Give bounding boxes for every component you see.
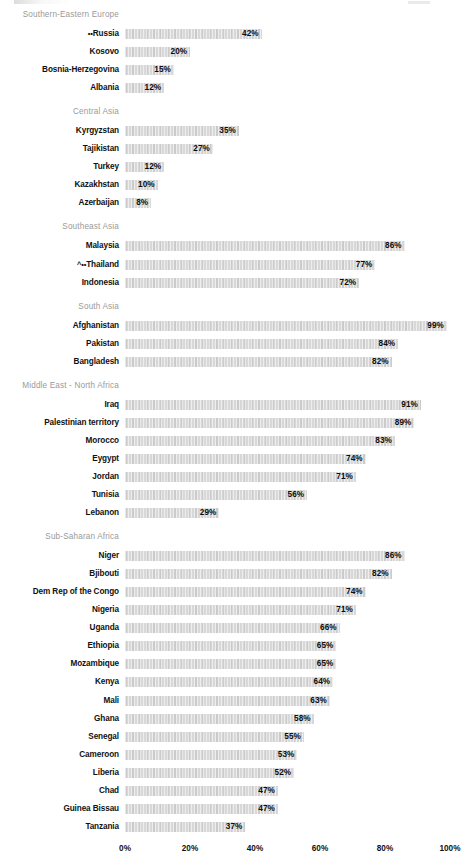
axis-tick-label: 100% — [430, 844, 468, 853]
chart-row: Chad47% — [0, 784, 468, 798]
bar-area: 72% — [125, 276, 450, 290]
row-label: Cameroon — [0, 748, 119, 762]
chart-row: Niger86% — [0, 549, 468, 563]
chart-row: Liberia52% — [0, 766, 468, 780]
row-label: Kazakhstan — [0, 178, 119, 192]
row-label: Indonesia — [0, 276, 119, 290]
country-name: Ethiopia — [88, 641, 120, 650]
row-label: Niger — [0, 549, 119, 563]
bar-area: 65% — [125, 639, 450, 653]
chart-row: ••Russia42% — [0, 27, 468, 41]
country-name: Guinea Bissau — [63, 804, 119, 813]
chart-row: Cameroon53% — [0, 748, 468, 762]
chart-row: Ethiopia65% — [0, 639, 468, 653]
bar-value-label: 86% — [125, 240, 402, 252]
country-name: Bjibouti — [89, 569, 119, 578]
row-label: Malaysia — [0, 239, 119, 253]
bar-area: 86% — [125, 549, 450, 563]
country-name: Uganda — [90, 623, 119, 632]
bar-area: 56% — [125, 488, 450, 502]
group-header: Central Asia — [0, 105, 119, 118]
axis-tick-label: 80% — [365, 844, 405, 853]
bar-value-label: 91% — [125, 399, 418, 411]
row-label: Ghana — [0, 712, 119, 726]
row-label: Jordan — [0, 470, 119, 484]
bar-value-label: 15% — [125, 64, 171, 76]
bar-area: 84% — [125, 337, 450, 351]
country-name: Morocco — [86, 436, 119, 445]
row-label: ^••Thailand — [0, 258, 119, 272]
country-name: Bangladesh — [74, 357, 119, 366]
country-name: Mali — [103, 696, 119, 705]
bar-area: 53% — [125, 748, 450, 762]
bar-value-label: 65% — [125, 640, 333, 652]
bar-area: 37% — [125, 820, 450, 834]
bar-area: 58% — [125, 712, 450, 726]
chart-row: Afghanistan99% — [0, 319, 468, 333]
chart-row: Tunisia56% — [0, 488, 468, 502]
chart-row: Senegal55% — [0, 730, 468, 744]
axis-tick-label: 40% — [235, 844, 275, 853]
bar-value-label: 37% — [125, 821, 242, 833]
row-label: Nigeria — [0, 603, 119, 617]
country-name: Azerbaijan — [79, 198, 119, 207]
bar-value-label: 74% — [125, 453, 363, 465]
chart-row: Pakistan84% — [0, 337, 468, 351]
bar-value-label: 71% — [125, 471, 353, 483]
chart-row: Ghana58% — [0, 712, 468, 726]
row-label: Uganda — [0, 621, 119, 635]
row-label: Bjibouti — [0, 567, 119, 581]
bar-value-label: 72% — [125, 277, 356, 289]
row-label: Eygypt — [0, 452, 119, 466]
bar-value-label: 77% — [125, 259, 372, 271]
bar-value-label: 47% — [125, 785, 275, 797]
footnote-marker: ^•• — [77, 260, 86, 269]
group-header: Southern-Eastern Europe — [0, 8, 119, 21]
row-label: Bangladesh — [0, 355, 119, 369]
chart-row: Kazakhstan10% — [0, 178, 468, 192]
bar-area: 83% — [125, 434, 450, 448]
bar-value-label: 20% — [125, 46, 187, 58]
bar-value-label: 52% — [125, 767, 291, 779]
chart-row: Jordan71% — [0, 470, 468, 484]
x-axis: 0%20%40%60%80%100% — [125, 844, 450, 855]
row-label: Turkey — [0, 160, 119, 174]
bar-value-label: 12% — [125, 82, 161, 94]
chart-row: Lebanon29% — [0, 506, 468, 520]
bar-area: 35% — [125, 124, 450, 138]
bar-area: 52% — [125, 766, 450, 780]
chart-row: Kyrgyzstan35% — [0, 124, 468, 138]
chart-row: Guinea Bissau47% — [0, 802, 468, 816]
row-label: Tajikistan — [0, 142, 119, 156]
bar-area: 89% — [125, 416, 450, 430]
axis-tick-label: 60% — [300, 844, 340, 853]
bar-value-label: 99% — [125, 320, 444, 332]
country-name: Liberia — [93, 768, 119, 777]
row-label: Ethiopia — [0, 639, 119, 653]
row-label: Tunisia — [0, 488, 119, 502]
bar-value-label: 42% — [125, 28, 259, 40]
bar-area: 99% — [125, 319, 450, 333]
chart-row: Mali63% — [0, 694, 468, 708]
bar-value-label: 63% — [125, 695, 327, 707]
row-label: Guinea Bissau — [0, 802, 119, 816]
bar-area: 64% — [125, 675, 450, 689]
bar-area: 27% — [125, 142, 450, 156]
row-label: Mali — [0, 694, 119, 708]
chart-row: Nigeria71% — [0, 603, 468, 617]
bar-value-label: 71% — [125, 604, 353, 616]
row-label: Dem Rep of the Congo — [0, 585, 119, 599]
chart-row: Palestinian territory89% — [0, 416, 468, 430]
group-header: South Asia — [0, 300, 119, 313]
bar-area: 29% — [125, 506, 450, 520]
country-name: Dem Rep of the Congo — [33, 587, 119, 596]
bar-value-label: 65% — [125, 658, 333, 670]
bar-value-label: 47% — [125, 803, 275, 815]
bar-area: 71% — [125, 470, 450, 484]
country-name: Palestinian territory — [44, 418, 119, 427]
country-name: Chad — [99, 786, 119, 795]
bar-value-label: 66% — [125, 622, 337, 634]
bar-value-label: 55% — [125, 731, 301, 743]
bar-area: 66% — [125, 621, 450, 635]
